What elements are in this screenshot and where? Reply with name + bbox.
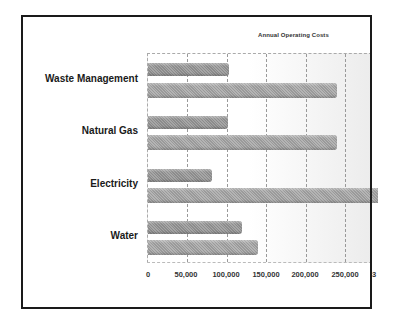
bar-waste-management-series1 — [148, 63, 229, 76]
bar-water-series1 — [148, 221, 242, 234]
category-label-electricity: Electricity — [90, 178, 138, 189]
bar-water-series2 — [148, 240, 258, 255]
chart-title: Annual Operating Costs — [258, 32, 329, 38]
category-label-water: Water — [111, 230, 138, 241]
bar-natural-gas-series2 — [148, 135, 337, 150]
x-tick-300000-clipped: 3 — [372, 270, 376, 279]
x-tick-50000: 50,000 — [175, 270, 198, 279]
bar-waste-management-series2 — [148, 83, 337, 98]
x-tick-250000: 250,000 — [331, 270, 358, 279]
bar-electricity-series1 — [148, 169, 212, 182]
category-label-waste-management: Waste Management — [45, 73, 138, 84]
x-tick-100000: 100,000 — [212, 270, 239, 279]
x-tick-200000: 200,000 — [291, 270, 318, 279]
x-tick-0: 0 — [146, 270, 150, 279]
bar-natural-gas-series1 — [148, 116, 228, 129]
plot-area — [147, 53, 372, 263]
bar-electricity-series2 — [148, 188, 378, 203]
x-tick-150000: 150,000 — [252, 270, 279, 279]
gridline-250k — [345, 54, 346, 262]
category-label-natural-gas: Natural Gas — [82, 125, 138, 136]
